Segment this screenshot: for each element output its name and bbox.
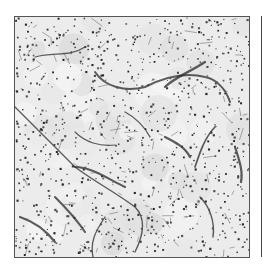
micrograph-image	[14, 16, 250, 258]
vertical-divider	[261, 16, 262, 257]
tissue-texture	[15, 17, 249, 257]
